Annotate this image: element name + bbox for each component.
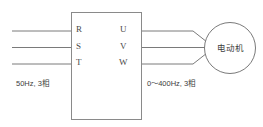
terminal-label-w: W	[119, 58, 128, 67]
terminal-label-s: S	[76, 42, 81, 51]
input-supply-annotation: 50Hz, 3相	[16, 80, 49, 88]
output-line-w	[142, 53, 207, 64]
terminal-label-u: U	[120, 25, 127, 34]
terminal-label-v: V	[120, 42, 127, 51]
terminal-label-r: R	[76, 25, 82, 34]
output-line-u	[142, 31, 207, 42]
diagram-vector-layer	[0, 0, 263, 127]
output-supply-annotation: 0～400Hz, 3相	[147, 80, 195, 88]
motor-label: 电动机	[204, 44, 256, 53]
terminal-label-t: T	[76, 58, 82, 67]
diagram-canvas: R S T U V W 电动机 50Hz, 3相 0～400Hz, 3相	[0, 0, 263, 127]
